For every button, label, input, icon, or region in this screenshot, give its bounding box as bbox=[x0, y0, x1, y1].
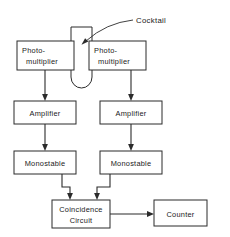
connector-monostable-left-to-coincidence bbox=[62, 174, 73, 200]
block-coincidence-circuit[interactable]: Coincidence Circuit bbox=[52, 200, 110, 228]
block-monostable-left[interactable]: Monostable bbox=[14, 151, 76, 174]
connector-monostable-right-to-coincidence bbox=[94, 174, 110, 200]
block-photomultiplier-left[interactable]: Photo- multiplier bbox=[17, 41, 74, 70]
connector-coincidence-to-counter bbox=[110, 211, 154, 217]
amplifier-right-label: Amplifier bbox=[116, 109, 147, 118]
coincidence-circuit-label-line2: Circuit bbox=[70, 216, 93, 225]
monostable-right-label: Monostable bbox=[111, 159, 152, 168]
coincidence-circuit-label-line1: Coincidence bbox=[59, 205, 102, 214]
connector-amplifier-left-to-monostable-left bbox=[42, 124, 48, 151]
block-counter[interactable]: Counter bbox=[154, 200, 207, 226]
amplifier-left-label: Amplifier bbox=[30, 109, 61, 118]
block-photomultiplier-right[interactable]: Photo- multiplier bbox=[89, 41, 146, 70]
callout-cocktail: Cocktail bbox=[82, 16, 167, 45]
photomultiplier-left-label-line1: Photo- bbox=[22, 46, 46, 55]
block-amplifier-left[interactable]: Amplifier bbox=[14, 101, 76, 124]
block-diagram: Photo- multiplier Photo- multiplier Ampl… bbox=[0, 0, 230, 237]
connector-pmt-left-to-amplifier-left bbox=[42, 70, 48, 101]
block-monostable-right[interactable]: Monostable bbox=[100, 151, 162, 174]
photomultiplier-right-label-line2: multiplier bbox=[98, 57, 130, 66]
block-amplifier-right[interactable]: Amplifier bbox=[100, 101, 162, 124]
connector-pmt-right-to-amplifier-right bbox=[128, 70, 134, 101]
cocktail-label: Cocktail bbox=[136, 16, 166, 25]
diagram-canvas: Photo- multiplier Photo- multiplier Ampl… bbox=[0, 0, 230, 237]
photomultiplier-left-label-line2: multiplier bbox=[26, 57, 58, 66]
counter-label: Counter bbox=[166, 210, 194, 219]
photomultiplier-right-label-line1: Photo- bbox=[94, 46, 118, 55]
connector-amplifier-right-to-monostable-right bbox=[128, 124, 134, 151]
monostable-left-label: Monostable bbox=[25, 159, 66, 168]
